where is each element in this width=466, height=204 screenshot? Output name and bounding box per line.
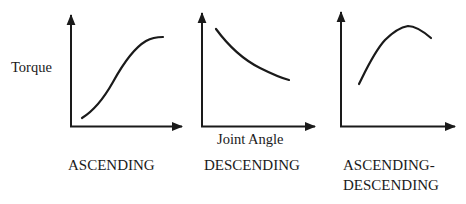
caption-ascending-descending-line2: DESCENDING — [343, 177, 439, 194]
ascending-descending-curve — [359, 26, 431, 84]
x-axis-label: Joint Angle — [217, 131, 283, 148]
caption-descending: DESCENDING — [204, 157, 300, 174]
ascending-curve — [82, 37, 163, 118]
panel-descending — [201, 13, 315, 127]
panel-ascending-descending — [340, 12, 455, 127]
descending-curve — [216, 29, 289, 80]
y-axis-label: Torque — [11, 59, 52, 76]
panel-ascending — [70, 15, 182, 127]
caption-ascending: ASCENDING — [68, 157, 155, 174]
caption-ascending-descending-line1: ASCENDING- — [343, 157, 435, 174]
